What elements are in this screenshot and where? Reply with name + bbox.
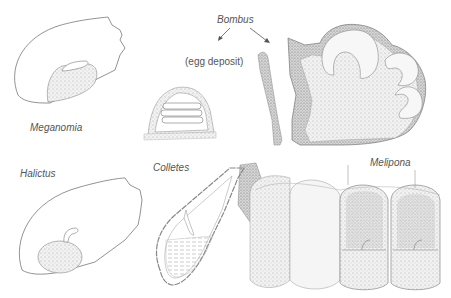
label-meganomia: Meganomia [30,122,82,133]
label-bombus: Bombus [217,14,254,25]
bombus-nest [258,24,426,145]
label-colletes: Colletes [153,162,189,173]
melipona-cells [250,165,440,290]
meganomia-cell [15,17,125,103]
bombus-egg-deposit [144,87,216,140]
label-halictus: Halictus [20,168,56,179]
bee-nest-cells-illustration [0,0,451,298]
halictus-cell [19,178,142,274]
bombus-arrows [218,28,270,43]
label-melipona: Melipona [370,157,411,168]
label-egg-deposit: (egg deposit) [185,56,243,67]
